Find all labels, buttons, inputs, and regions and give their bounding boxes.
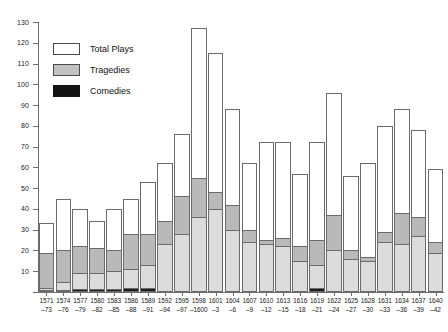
x-axis-tick [63,292,64,296]
x-label-end-year: –42 [424,305,447,314]
bar-column [39,223,55,292]
legend-label: Tragedies [90,65,130,75]
bar-column [191,28,207,292]
y-axis-tick-label: 120 [0,39,29,46]
bar-segment-comedies [360,261,376,292]
x-axis-tick [368,292,369,296]
bar-column [360,163,376,292]
bar-column [377,126,393,292]
bar-column [326,93,342,292]
bar-column [275,142,291,292]
x-axis-tick [199,292,200,296]
bar-column [309,142,325,292]
bar-column [89,221,105,292]
bar-segment-comedies [208,209,224,292]
y-axis-tick-label: 100 [0,81,29,88]
bar-segment-comedies [394,244,410,292]
x-axis-tick [402,292,403,296]
legend-item-comedies: Comedies [53,82,134,100]
x-axis-tick [114,292,115,296]
bar-chart: 102030405060708090100110120130 1571–7315… [0,0,448,332]
bar-column [242,163,258,292]
bar-segment-tragedies [39,253,55,292]
x-axis-tick [148,292,149,296]
bar-column [157,163,173,292]
bar-segment-comedies [191,217,207,292]
bar-column [140,182,156,292]
y-axis-tick-label: 30 [0,226,29,233]
bar-segment-comedies [326,250,342,292]
bar-segment-comedies [242,242,258,292]
bar-column [394,109,410,292]
bar-segment-comedies [377,242,393,292]
x-axis-tick [419,292,420,296]
bar-column [411,130,427,292]
bar-segment-comedies [174,234,190,292]
x-axis-tick [249,292,250,296]
bar-column [292,174,308,292]
bar-segment-comedies [428,253,444,292]
x-axis-line [38,292,444,293]
bar-segment-comedies [411,236,427,292]
x-axis-tick [317,292,318,296]
bar-column [343,176,359,292]
x-axis-tick-label: 1640–42 [424,296,447,314]
y-axis-tick-label: 130 [0,19,29,26]
x-axis-tick [300,292,301,296]
legend-item-total-plays: Total Plays [53,40,134,58]
x-axis-tick [97,292,98,296]
bar-column [428,169,444,292]
x-axis-tick [182,292,183,296]
y-axis-tick [33,292,38,293]
x-axis-tick [131,292,132,296]
legend-label: Total Plays [90,44,134,54]
bar-column [56,199,72,292]
x-axis-tick [80,292,81,296]
x-label-start-year: 1640 [424,296,447,305]
bar-column [123,199,139,292]
x-axis-tick [334,292,335,296]
y-axis-tick-label: 20 [0,247,29,254]
bar-segment-comedies [275,246,291,292]
x-axis-tick [46,292,47,296]
x-axis-tick [165,292,166,296]
bar-segment-comedies [292,261,308,292]
y-axis-tick-label: 110 [0,60,29,67]
bar-column [208,53,224,292]
y-axis-tick-label: 50 [0,185,29,192]
x-axis-tick [216,292,217,296]
bar-column [72,209,88,292]
bar-column [259,142,275,292]
x-axis-tick [351,292,352,296]
y-axis-tick-label: 60 [0,164,29,171]
x-axis-tick [283,292,284,296]
bar-column [106,209,122,292]
chart-legend: Total Plays Tragedies Comedies [53,40,134,103]
y-axis-tick-label: 10 [0,268,29,275]
white-swatch-icon [53,43,80,55]
bar-segment-comedies [157,244,173,292]
y-axis-tick-label: 90 [0,102,29,109]
black-swatch-icon [53,85,80,97]
bar-column [225,109,241,292]
legend-item-tragedies: Tragedies [53,61,134,79]
grey-swatch-icon [53,64,80,76]
bar-segment-comedies [259,244,275,292]
x-axis-labels: 1571–731574–761577–791580–821583–851586–… [38,296,444,326]
x-axis-tick [385,292,386,296]
bar-column [174,134,190,292]
bar-segment-comedies [225,230,241,292]
x-axis-tick [436,292,437,296]
y-axis-tick-label: 70 [0,143,29,150]
x-axis-tick [233,292,234,296]
y-axis-tick-label: 40 [0,205,29,212]
legend-label: Comedies [90,86,131,96]
bar-segment-comedies [343,259,359,292]
y-axis-tick-label: 80 [0,122,29,129]
x-axis-tick [266,292,267,296]
